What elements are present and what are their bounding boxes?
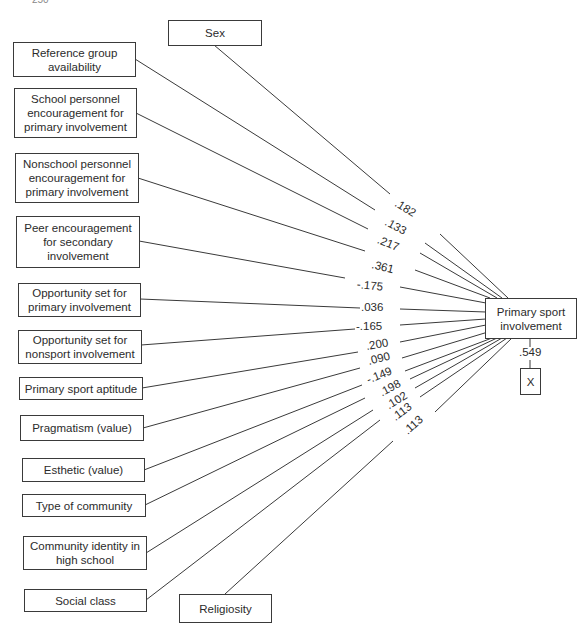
path-line-opportunity-primary [140,299,360,308]
path-line-social-class [146,420,380,600]
node-nonschool-personnel: Nonschool personnel encouragement for pr… [15,153,139,203]
path-line-pragmatism-end [402,332,488,358]
path-line-peer-encouragement-end [400,287,486,303]
node-primary-sport-involvement: Primary sport involvement [485,298,577,339]
node-social-class: Social class [24,589,147,612]
path-line-religiosity [225,441,393,594]
node-opportunity-nonsport: Opportunity set for nonsport involvement [18,330,142,364]
coef-residual: .549 [519,346,541,358]
node-community-identity: Community identity in high school [23,536,147,570]
path-line-nonschool-personnel-end [415,270,490,298]
coef-opportunity-nonsport: -.165 [356,320,382,332]
node-pragmatism: Pragmatism (value) [20,415,144,441]
path-line-peer-encouragement [139,241,345,278]
coef-peer-encouragement: -.175 [356,278,383,293]
path-line-type-of-community-end [410,338,497,379]
path-line-reference-group-end [425,243,502,298]
path-line-reference-group [135,59,375,210]
path-line-opportunity-primary-end [400,309,486,312]
path-line-esthetic-end [405,338,492,371]
path-line-opportunity-nonsport-end [400,319,486,325]
path-line-sport-aptitude [142,352,358,388]
path-line-nonschool-personnel [138,178,365,251]
node-opportunity-primary: Opportunity set for primary involvement [18,283,141,317]
node-residual-x: X [520,368,541,395]
node-sex: Sex [168,20,262,46]
path-line-sex-end [440,234,508,298]
node-reference-group: Reference group availability [13,42,136,77]
path-line-school-personnel-end [420,253,497,298]
node-sport-aptitude: Primary sport aptitude [19,377,143,400]
path-line-community-identity [146,410,373,553]
node-type-of-community: Type of community [22,494,146,517]
path-diagram: 250 [0,0,577,626]
node-religiosity: Religiosity [179,594,272,623]
node-school-personnel: School personnel encouragement for prima… [14,88,137,138]
path-line-sex [214,45,390,194]
path-line-school-personnel [136,113,368,229]
path-line-social-class-end [420,338,507,397]
path-line-community-identity-end [415,338,502,388]
node-esthetic: Esthetic (value) [22,458,145,482]
path-line-type-of-community [145,398,365,505]
coef-opportunity-primary: .036 [361,301,383,313]
node-peer-encouragement: Peer encouragement for secondary involve… [16,216,140,268]
path-line-opportunity-nonsport [141,329,355,345]
path-line-sport-aptitude-end [400,325,486,342]
